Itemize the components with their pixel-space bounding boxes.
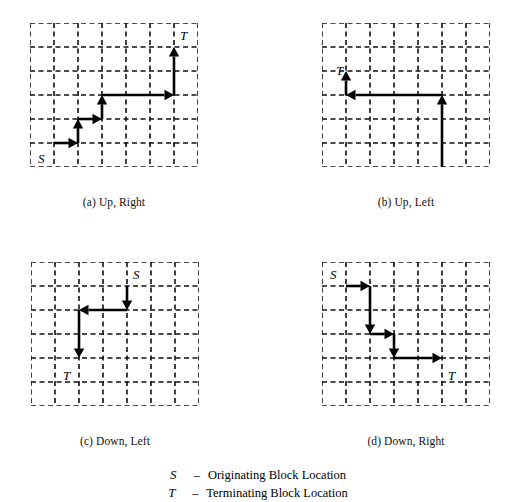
legend-dash-0: – — [186, 467, 208, 484]
panel-d-caption: (d) Down, Right — [322, 435, 490, 447]
legend-row-terminating: T – Terminating Block Location — [168, 484, 347, 502]
legend-dash-1: – — [184, 485, 206, 502]
legend-text-terminating: Terminating Block Location — [206, 485, 347, 502]
panel-b-grid: ST — [322, 23, 490, 167]
arrowhead-left — [346, 90, 356, 100]
panel-d-down-right: ST — [322, 262, 490, 406]
arrowhead-right — [93, 114, 103, 124]
panel-b-caption: (b) Up, Left — [322, 196, 490, 208]
legend-row-originating: S – Originating Block Location — [170, 466, 346, 484]
terminus-label-t: T — [448, 368, 456, 383]
arrowhead-right — [433, 353, 443, 363]
figure-legend: S – Originating Block Location T – Termi… — [0, 466, 516, 502]
arrowhead-up — [73, 119, 83, 129]
arrowhead-up — [97, 95, 107, 105]
origin-label-s: S — [330, 267, 337, 282]
arrowhead-down — [122, 301, 132, 311]
origin-label-s: S — [133, 267, 140, 282]
panel-a-grid: ST — [30, 23, 198, 167]
panel-a-up-right: ST — [30, 23, 198, 167]
arrowhead-up — [169, 47, 179, 57]
arrowhead-right — [69, 138, 79, 148]
arrowhead-right — [165, 90, 175, 100]
panel-a-caption: (a) Up, Right — [30, 196, 198, 208]
terminus-label-t: T — [336, 63, 344, 78]
legend-symbol-t: T — [168, 484, 184, 501]
arrowhead-down — [74, 349, 84, 359]
panel-c-down-left: ST — [31, 262, 199, 406]
panel-b-up-left: ST — [322, 23, 490, 167]
arrowhead-up — [437, 95, 447, 105]
panel-c-grid: ST — [31, 262, 199, 406]
arrowhead-right — [385, 329, 395, 339]
legend-text-originating: Originating Block Location — [208, 467, 346, 484]
panel-d-grid: ST — [322, 262, 490, 406]
origin-label-s: S — [38, 151, 45, 166]
arrowhead-right — [361, 281, 371, 291]
arrowhead-down — [365, 325, 375, 335]
arrowhead-down — [389, 349, 399, 359]
panel-c-caption: (c) Down, Left — [31, 435, 199, 447]
figure-root: ST (a) Up, Right ST (b) Up, Left ST (c) … — [0, 0, 516, 502]
terminus-label-t: T — [63, 368, 71, 383]
legend-symbol-s: S — [170, 466, 186, 483]
arrowhead-left — [79, 305, 89, 315]
terminus-label-t: T — [180, 28, 188, 43]
